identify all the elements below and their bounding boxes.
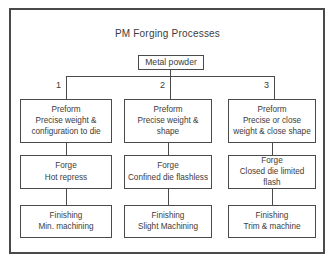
node-branch-1-forge-body: Hot repress — [45, 173, 87, 183]
connector-branch-3-forge-to-finishing — [272, 189, 273, 205]
connector-branch-2-forge-to-finishing — [168, 189, 169, 205]
node-branch-1-finishing-body: Min. machining — [38, 222, 93, 232]
connector-branch-1-preform-to-forge — [66, 143, 67, 155]
node-branch-3-preform-header: Preform — [257, 105, 286, 115]
node-branch-2-preform: Preform Precise weight & shape — [124, 99, 212, 143]
node-metal-powder: Metal powder — [138, 55, 204, 70]
node-branch-2-forge-body: Confined die flashless — [128, 173, 208, 183]
connector-bus-to-branch-1 — [66, 76, 67, 99]
node-branch-1-forge: Forge Hot repress — [20, 155, 112, 189]
node-branch-3-forge-body: Closed die limited flash — [231, 167, 313, 187]
diagram-title: PM Forging Processes — [0, 28, 335, 39]
node-branch-2-finishing-header: Finishing — [152, 211, 185, 221]
connector-bus-to-branch-3 — [274, 76, 275, 99]
node-branch-2-finishing-body: Slight Machining — [138, 222, 198, 232]
diagram-canvas: PM Forging Processes Metal powder 1 2 3 … — [0, 0, 335, 263]
connector-branch-3-preform-to-forge — [272, 143, 273, 155]
connector-branch-1-forge-to-finishing — [66, 189, 67, 205]
connector-branch-2-preform-to-forge — [168, 143, 169, 155]
node-branch-3-preform-body: Precise or close weight & close shape — [231, 116, 313, 136]
node-branch-2-preform-body: Precise weight & shape — [127, 116, 209, 136]
branch-number-3: 3 — [264, 80, 269, 90]
node-branch-3-preform: Preform Precise or close weight & close … — [228, 99, 316, 143]
node-branch-3-forge: Forge Closed die limited flash — [228, 155, 316, 189]
node-metal-powder-label: Metal powder — [145, 57, 197, 67]
node-branch-2-forge-header: Forge — [157, 161, 178, 171]
node-branch-1-finishing-header: Finishing — [50, 211, 83, 221]
node-branch-1-finishing: Finishing Min. machining — [20, 205, 112, 238]
node-branch-3-finishing-header: Finishing — [256, 211, 289, 221]
branch-number-1: 1 — [56, 80, 61, 90]
node-branch-2-preform-header: Preform — [153, 105, 182, 115]
node-branch-3-finishing-body: Trim & machine — [243, 222, 300, 232]
node-branch-1-preform: Preform Precise weight & configuration t… — [20, 99, 112, 143]
node-branch-3-forge-header: Forge — [261, 156, 282, 166]
node-branch-1-forge-header: Forge — [55, 161, 76, 171]
node-branch-1-preform-header: Preform — [51, 105, 80, 115]
node-branch-2-forge: Forge Confined die flashless — [124, 155, 212, 189]
node-branch-1-preform-body: Precise weight & configuration to die — [23, 116, 109, 136]
node-branch-2-finishing: Finishing Slight Machining — [124, 205, 212, 238]
connector-bus-to-branch-2 — [170, 76, 171, 99]
node-branch-3-finishing: Finishing Trim & machine — [228, 205, 316, 238]
branch-number-2: 2 — [160, 80, 165, 90]
